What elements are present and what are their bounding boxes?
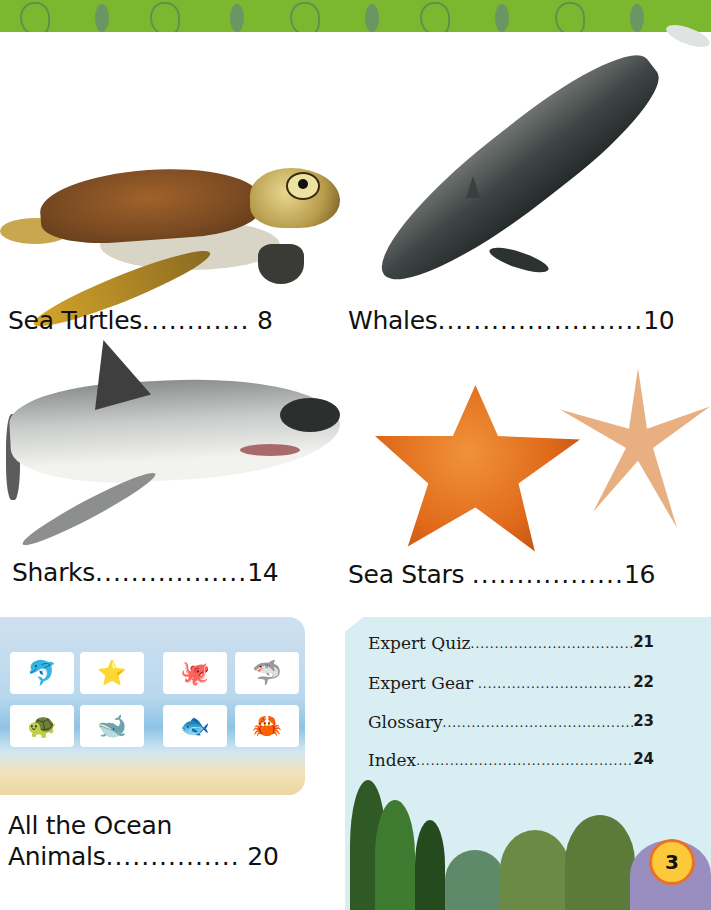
leaf-pattern-icon xyxy=(420,2,450,32)
whale-card: 🐋 xyxy=(80,705,144,747)
fish-school-card: 🐟 xyxy=(163,705,227,747)
fish-pattern-icon xyxy=(495,4,509,32)
seaweed-icon xyxy=(565,815,635,910)
page-number: 8 xyxy=(257,306,273,335)
turtle-card: 🐢 xyxy=(10,705,74,747)
decorative-banner xyxy=(0,0,711,32)
dolphin-card: 🐬 xyxy=(10,652,74,694)
spiny-star-icon xyxy=(560,368,710,528)
sea-star-card: ⭐ xyxy=(80,652,144,694)
seaweed-icon xyxy=(375,800,415,910)
page-number: 10 xyxy=(643,306,674,335)
toc-entry-expert-quiz[interactable]: Expert Quiz.............................… xyxy=(368,633,654,655)
toc-entry-all-ocean-animals[interactable]: All the Ocean Animals............... 20 xyxy=(8,810,279,872)
toc-entry-glossary[interactable]: Glossary................................… xyxy=(368,712,654,734)
page-number-badge: 3 xyxy=(649,839,695,885)
fish-pattern-icon xyxy=(365,4,379,32)
fish-pattern-icon xyxy=(230,4,244,32)
toc-entry-sea-turtles[interactable]: Sea Turtles............ 8 xyxy=(8,306,273,335)
fish-pattern-icon xyxy=(630,4,644,32)
toc-entry-sharks[interactable]: Sharks.................14 xyxy=(12,558,278,587)
page-number: 14 xyxy=(247,558,278,587)
page-number: 16 xyxy=(624,560,655,589)
seaweed-icon xyxy=(500,830,570,910)
page-number: 20 xyxy=(247,842,278,871)
toc-entry-expert-gear[interactable]: Expert Gear ............................… xyxy=(368,673,654,695)
leaf-pattern-icon xyxy=(290,2,320,32)
leaf-pattern-icon xyxy=(20,2,50,32)
crab-card: 🦀 xyxy=(235,705,299,747)
toc-entry-whales[interactable]: Whales.......................10 xyxy=(348,306,674,335)
toc-entry-index[interactable]: Index...................................… xyxy=(368,750,654,772)
leaf-pattern-icon xyxy=(150,2,180,32)
fish-pattern-icon xyxy=(95,4,109,32)
leaf-pattern-icon xyxy=(555,2,585,32)
seaweed-icon xyxy=(415,820,445,910)
octopus-card: 🐙 xyxy=(163,652,227,694)
cushion-star-icon xyxy=(375,385,580,555)
toc-entry-sea-stars[interactable]: Sea Stars .................16 xyxy=(348,560,655,589)
seaweed-icon xyxy=(445,850,505,910)
ocean-animals-collage: 🐬 ⭐ 🐙 🦈 🐢 🐋 🐟 🦀 xyxy=(0,617,305,795)
shark-card: 🦈 xyxy=(235,652,299,694)
